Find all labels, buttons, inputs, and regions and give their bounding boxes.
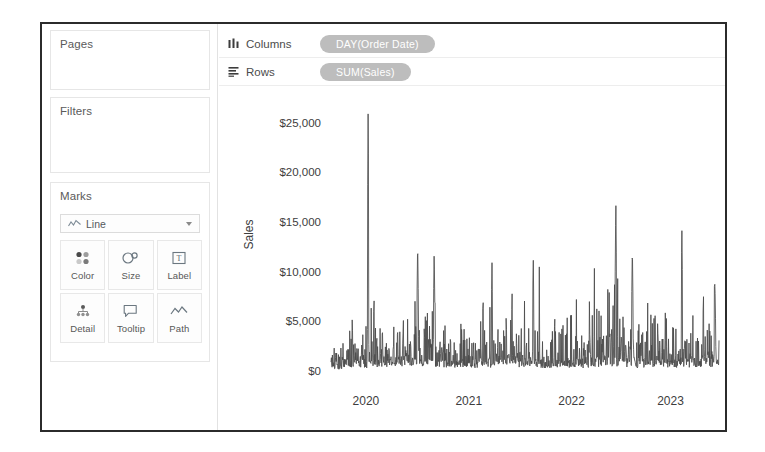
y-axis-tick: $20,000 (279, 166, 321, 178)
marks-detail-button[interactable]: Detail (60, 293, 105, 343)
x-axis-tick: 2023 (657, 394, 684, 408)
marks-color-label: Color (71, 270, 94, 281)
detail-hierarchy-icon (75, 303, 91, 319)
chart-canvas: $0$5,000$10,000$15,000$20,000$25,000Sale… (219, 86, 727, 432)
marks-sidebar: Pages Filters Marks Line (42, 24, 218, 430)
pill-sum-sales[interactable]: SUM(Sales) (320, 63, 411, 81)
y-axis-title: Sales (242, 219, 256, 249)
line-chart-icon (68, 219, 81, 228)
marks-title: Marks (51, 183, 209, 202)
pill-day-order-date[interactable]: DAY(Order Date) (320, 35, 435, 53)
view-pane: Columns DAY(Order Date) Rows SUM(Sales) … (219, 24, 725, 430)
marks-buttons-grid: Color Size T (60, 240, 202, 343)
y-axis-tick: $5,000 (286, 315, 321, 327)
svg-text:T: T (177, 254, 182, 263)
x-axis-tick: 2021 (455, 394, 482, 408)
pages-card[interactable]: Pages (50, 30, 210, 90)
y-axis-tick: $15,000 (279, 216, 321, 228)
color-palette-icon (75, 250, 90, 266)
chevron-down-icon[interactable] (186, 222, 192, 226)
marks-size-button[interactable]: Size (108, 240, 153, 290)
tableau-worksheet: Pages Filters Marks Line (40, 22, 727, 432)
x-axis-tick: 2020 (353, 394, 380, 408)
marks-path-label: Path (169, 323, 189, 334)
label-text-icon: T (172, 250, 186, 266)
marks-tooltip-button[interactable]: Tooltip (108, 293, 153, 343)
columns-icon (226, 38, 240, 49)
filters-title: Filters (51, 98, 209, 117)
marks-tooltip-label: Tooltip (117, 323, 145, 334)
mark-type-value: Line (86, 218, 106, 230)
marks-label-label: Label (167, 270, 191, 281)
rows-icon (226, 66, 240, 77)
columns-label: Columns (246, 38, 320, 50)
y-axis-tick: $25,000 (279, 117, 321, 129)
y-axis-tick: $10,000 (279, 266, 321, 278)
x-axis-tick: 2022 (558, 394, 585, 408)
columns-shelf[interactable]: Columns DAY(Order Date) (219, 30, 725, 58)
marks-detail-label: Detail (70, 323, 95, 334)
y-axis-tick: $0 (308, 365, 321, 377)
line-chart[interactable]: $0$5,000$10,000$15,000$20,000$25,000Sale… (219, 86, 725, 430)
size-circles-icon (122, 250, 139, 266)
path-line-icon (170, 303, 188, 319)
filters-card[interactable]: Filters (50, 97, 210, 173)
marks-size-label: Size (122, 270, 141, 281)
tooltip-bubble-icon (123, 303, 138, 319)
marks-color-button[interactable]: Color (60, 240, 105, 290)
sales-line-series[interactable] (331, 114, 719, 369)
rows-shelf[interactable]: Rows SUM(Sales) (219, 58, 725, 86)
marks-path-button[interactable]: Path (157, 293, 202, 343)
marks-label-button[interactable]: T Label (157, 240, 202, 290)
marks-card: Marks Line (50, 182, 210, 362)
mark-type-select[interactable]: Line (60, 214, 200, 233)
rows-label: Rows (246, 66, 320, 78)
pages-title: Pages (51, 31, 209, 50)
